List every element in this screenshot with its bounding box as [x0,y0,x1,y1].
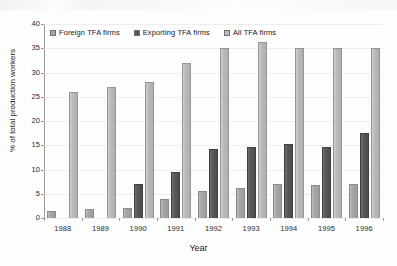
legend-label: Foreign TFA firms [59,28,120,37]
y-tick-label: 25 [31,92,40,101]
bar [295,48,304,218]
x-tick-mark [270,218,271,221]
x-tick-label: 1995 [309,224,345,233]
bar [236,188,245,218]
y-tick: 20 [22,116,40,126]
bar [134,184,143,218]
bar [247,147,256,218]
y-axis-title: % of total production workers [8,26,17,176]
x-tick-mark [44,218,45,221]
bar [171,172,180,218]
y-tick-label: 10 [31,165,40,174]
x-tick-label: 1991 [158,224,194,233]
y-tick-mark [41,97,44,98]
x-tick-label: 1988 [45,224,81,233]
bar [182,63,191,218]
y-tick: 0 [22,213,40,223]
bar-group [44,24,82,218]
bar [220,48,229,218]
legend-label: Exporting TFA firms [143,28,210,37]
chart-legend: Foreign TFA firmsExporting TFA firmsAll … [50,28,276,37]
bar [349,184,358,218]
y-tick: 35 [22,43,40,53]
x-tick-mark [157,218,158,221]
bar [333,48,342,218]
bar [107,87,116,218]
bar [322,147,331,218]
x-tick-mark [308,218,309,221]
y-tick-mark [41,145,44,146]
bar [69,92,78,218]
plot-area [44,24,383,218]
scan-artifact-strip [0,0,397,10]
bar [145,82,154,218]
legend-item: All TFA firms [224,28,276,37]
bar-group [308,24,346,218]
y-tick: 10 [22,165,40,175]
y-tick-label: 20 [31,116,40,125]
x-tick-mark [82,218,83,221]
x-tick-label: 1990 [120,224,156,233]
bar [311,185,320,218]
x-tick-mark [345,218,346,221]
bar [123,208,132,218]
y-tick: 15 [22,140,40,150]
x-tick-label: 1989 [83,224,119,233]
legend-swatch-icon [50,30,56,36]
bar [85,209,94,218]
y-tick-label: 15 [31,140,40,149]
y-tick-mark [41,194,44,195]
y-tick: 30 [22,68,40,78]
y-tick-label: 35 [31,43,40,52]
y-tick-label: 30 [31,68,40,77]
legend-label: All TFA firms [233,28,276,37]
bar-group [345,24,383,218]
x-tick-mark [195,218,196,221]
bar [284,144,293,218]
bar-group [270,24,308,218]
x-tick-mark [232,218,233,221]
y-tick-label: 5 [36,189,40,198]
bar [47,211,56,218]
x-tick-label: 1994 [271,224,307,233]
bar-group [157,24,195,218]
y-tick-label: 0 [36,213,40,222]
bar-group [82,24,120,218]
bar-group [195,24,233,218]
y-tick-mark [41,24,44,25]
bar-group [119,24,157,218]
x-tick-mark [119,218,120,221]
legend-swatch-icon [134,30,140,36]
bar [273,184,282,218]
bar-chart: % of total production workers Year 05101… [0,0,397,266]
y-tick-mark [41,121,44,122]
x-tick-mark [383,218,384,221]
y-tick: 5 [22,189,40,199]
legend-item: Exporting TFA firms [134,28,210,37]
bar [198,191,207,218]
x-tick-label: 1992 [196,224,232,233]
legend-item: Foreign TFA firms [50,28,120,37]
bar [360,133,369,218]
y-tick-mark [41,73,44,74]
x-tick-label: 1996 [346,224,382,233]
y-tick-mark [41,170,44,171]
y-tick-label: 40 [31,19,40,28]
gridline [44,218,383,219]
bar [209,149,218,218]
x-axis-title: Year [0,243,397,253]
x-tick-label: 1993 [233,224,269,233]
legend-swatch-icon [224,30,230,36]
bar [160,199,169,218]
y-tick-mark [41,48,44,49]
bar [258,42,267,218]
bar-group [232,24,270,218]
y-tick: 25 [22,92,40,102]
bar [371,48,380,218]
y-tick: 40 [22,19,40,29]
